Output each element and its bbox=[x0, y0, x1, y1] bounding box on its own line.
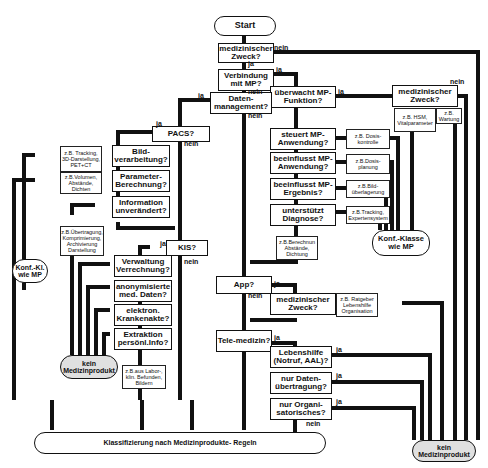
start-terminal: Start bbox=[214, 16, 276, 36]
example-hsm: z.B. HSM, Vitalparameter bbox=[394, 108, 436, 132]
decision-data-management: Daten-management? bbox=[210, 92, 272, 114]
example-volumen: z.B.Volumen, Abstände, Dichten bbox=[60, 172, 102, 194]
edge-label-yes: ja bbox=[336, 398, 342, 405]
example-berechnung: z.B.Berechnun Abstände, Dichtung bbox=[276, 236, 318, 260]
decision-connection-mp: Verbindung mit MP? bbox=[218, 69, 274, 91]
edge-label-yes: ja bbox=[336, 346, 342, 353]
decision-controls-mp: steuert MP-Anwendung? bbox=[270, 128, 336, 150]
decision-influences-result: beeinflusst MP-Ergebnis? bbox=[270, 178, 336, 200]
example-dosiskontrolle: z.B. Dosis-kontrolle bbox=[346, 129, 390, 149]
example-wartung: z.B. Wartung bbox=[436, 108, 462, 124]
edge-label-yes: ja bbox=[156, 120, 162, 127]
example-tracking-3d: z.B. Tracking, 3D-Darstellung, PET+CT bbox=[60, 146, 102, 172]
terminal-no-medical-product-left: kein Medizinprodukt bbox=[60, 355, 118, 379]
edge-label-yes: ja bbox=[248, 60, 254, 67]
edge-label-no: nein bbox=[248, 112, 262, 119]
decision-app: App? bbox=[216, 276, 272, 294]
decision-administration: Verwaltung Verrechnung? bbox=[114, 255, 172, 277]
decision-life-assistance: Lebenshilfe (Notruf, AAL)? bbox=[270, 346, 332, 368]
decision-info-unchanged: Information unverändert? bbox=[112, 196, 170, 218]
decision-parameter-calc: Parameter-Berechnung? bbox=[112, 170, 170, 192]
example-labor: z.B.aus Labor-, klin. Befunden, Bildern bbox=[122, 365, 166, 389]
terminal-conf-class-left: Konf.-Kl. wie MP bbox=[12, 259, 48, 283]
edge-label-yes: ja bbox=[336, 372, 342, 379]
edge-label-yes: ja bbox=[276, 66, 282, 73]
example-bildueberlagerung: z.B.Bild-überlagerung bbox=[346, 180, 390, 198]
terminal-classification: Klassifizierung nach Medizinprodukte- Re… bbox=[34, 432, 326, 454]
edge-label-no: nein bbox=[450, 78, 464, 85]
decision-medical-purpose-3: medizinischer Zweck? bbox=[270, 293, 336, 315]
decision-monitors-mp: überwacht MP-Funktion? bbox=[270, 86, 336, 108]
decision-data-transfer-only: nur Daten-übertragung? bbox=[270, 372, 332, 394]
edge-label-no: nein bbox=[184, 258, 198, 265]
edge-label-yes: ja bbox=[198, 92, 204, 99]
decision-extraction: Extraktion persönl.Info? bbox=[114, 328, 172, 350]
edge-label-no: nein bbox=[248, 88, 262, 95]
example-uebertragung: z.B.Übertragung, Komprimierung, Archivie… bbox=[60, 226, 104, 256]
edge-label-no: nein bbox=[306, 420, 320, 427]
edge-label-yes: ja bbox=[274, 280, 280, 287]
decision-medical-purpose-2: medizinischer Zweck? bbox=[392, 85, 458, 107]
example-dosisplanung: z.B.Dosis-planung bbox=[346, 154, 390, 174]
edge-label-no: nein bbox=[184, 140, 198, 147]
decision-medical-purpose: medizinischer Zweck? bbox=[218, 43, 274, 63]
decision-kis: KIS? bbox=[166, 240, 208, 256]
decision-organizational-only: nur Organi-satorisches? bbox=[270, 398, 332, 420]
decision-electronic-record: elektron. Krankenakte? bbox=[114, 304, 172, 326]
flowchart-canvas: Start medizinischer Zweck? Verbindung mi… bbox=[0, 0, 488, 468]
edge-label-yes: ja bbox=[338, 88, 344, 95]
edge-label-yes: ja bbox=[160, 240, 166, 247]
decision-supports-diagnosis: unterstützt Diagnose? bbox=[270, 204, 336, 226]
decision-telemedicine: Tele-medizin? bbox=[216, 330, 272, 352]
decision-pacs: PACS? bbox=[152, 126, 210, 142]
decision-image-processing: Bild-verarbeitung? bbox=[112, 145, 170, 167]
terminal-conf-class-right: Konf.-Klasse wie MP bbox=[372, 230, 430, 256]
edge-label-yes: ja bbox=[274, 334, 280, 341]
terminal-no-medical-product-right: kein Medizinprodukt bbox=[412, 440, 476, 462]
edge-label-no: nein bbox=[248, 292, 262, 299]
edge-label-no: nein bbox=[274, 44, 288, 51]
example-ratgeber: z.B. Ratgeber Lebenshilfe Organisation bbox=[336, 293, 378, 317]
decision-anonymized-data: anonymisierte med. Daten? bbox=[114, 280, 172, 302]
decision-influences-application: beeinflusst MP-Anwendung? bbox=[270, 152, 336, 174]
example-tracking-expert: z.B.Tracking, Expertensystem bbox=[346, 206, 390, 224]
